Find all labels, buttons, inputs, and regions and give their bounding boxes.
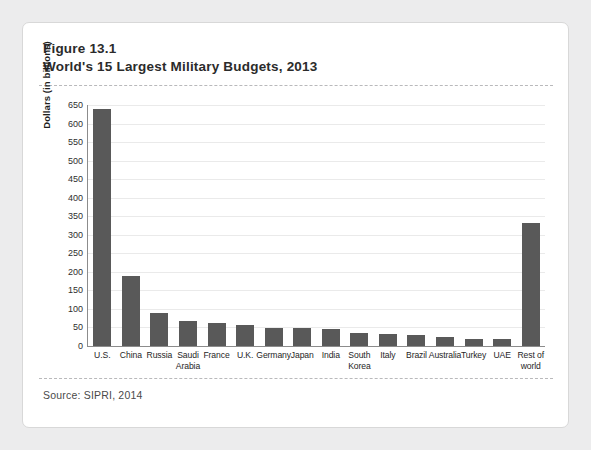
bar-group: U.S. [88, 105, 117, 346]
bar [407, 335, 425, 346]
bar-group: Japan [288, 105, 317, 346]
bar-group: Italy [374, 105, 403, 346]
bar-group: Saudi Arabia [174, 105, 203, 346]
bar-group: China [117, 105, 146, 346]
figure-title-block: Figure 13.1 World's 15 Largest Military … [43, 40, 543, 76]
bar [150, 313, 168, 346]
bar-group: Russia [145, 105, 174, 346]
bar [265, 328, 283, 346]
bar [436, 337, 454, 346]
bar-group: U.K. [231, 105, 260, 346]
divider-top [39, 85, 553, 86]
bar-group: France [202, 105, 231, 346]
bar [522, 223, 540, 346]
y-axis-tick-label: 550 [68, 137, 83, 147]
bar-group: Rest of world [516, 105, 545, 346]
bar [293, 328, 311, 346]
y-axis-tick-label: 400 [68, 193, 83, 203]
y-axis-tick-label: 150 [68, 285, 83, 295]
y-axis-tick-label: 650 [68, 100, 83, 110]
bar-chart: Dollars (in billions) 050100150200250300… [39, 95, 553, 373]
bar-group: UAE [488, 105, 517, 346]
bar [236, 325, 254, 346]
bar [179, 321, 197, 346]
y-axis-tick-label: 50 [73, 322, 83, 332]
y-axis-tick-label: 600 [68, 119, 83, 129]
y-axis-tick-label: 300 [68, 230, 83, 240]
bar-group: India [317, 105, 346, 346]
figure-label: Figure 13.1 [43, 40, 543, 58]
y-axis-tick-label: 100 [68, 304, 83, 314]
bar-group: Turkey [459, 105, 488, 346]
bar-group: Brazil [402, 105, 431, 346]
figure-card: Figure 13.1 World's 15 Largest Military … [22, 22, 569, 428]
bar [208, 323, 226, 346]
y-axis-label: Dollars (in billions) [41, 15, 52, 155]
y-axis-tick-label: 450 [68, 174, 83, 184]
bar [493, 339, 511, 346]
y-axis-tick-label: 500 [68, 156, 83, 166]
bar-group: Germany [259, 105, 288, 346]
bar [122, 276, 140, 346]
y-axis-tick-label: 250 [68, 248, 83, 258]
x-axis-tick-label: Rest of world [509, 350, 553, 371]
bar [465, 339, 483, 346]
y-axis-tick-label: 200 [68, 267, 83, 277]
bar-group: Australia [431, 105, 460, 346]
y-axis-tick-label: 350 [68, 211, 83, 221]
bar [93, 109, 111, 346]
plot-area: 050100150200250300350400450500550600650 … [87, 105, 545, 347]
bar-series: U.S.ChinaRussiaSaudi ArabiaFranceU.K.Ger… [88, 105, 545, 346]
bar [322, 329, 340, 346]
divider-bottom [39, 378, 553, 379]
bar [350, 333, 368, 346]
page-title: World's 15 Largest Military Budgets, 201… [43, 58, 543, 76]
bar-group: South Korea [345, 105, 374, 346]
source-note: Source: SIPRI, 2014 [43, 389, 143, 401]
bar [379, 334, 397, 346]
